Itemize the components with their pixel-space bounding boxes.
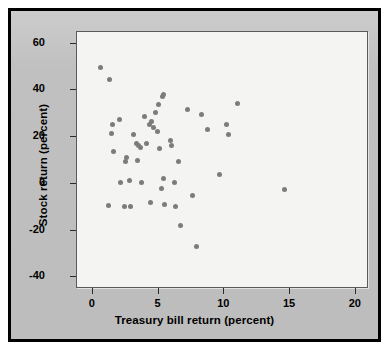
- x-tick-mark: [223, 288, 224, 294]
- x-tick-label: 15: [269, 297, 309, 309]
- plot-area: [76, 31, 368, 288]
- y-tick-mark: [70, 183, 76, 184]
- scatter-point: [136, 143, 141, 148]
- x-axis-label: Treasury bill return (percent): [11, 314, 378, 326]
- x-tick-label: 5: [138, 297, 178, 309]
- y-tick-label: -40: [0, 270, 45, 281]
- scatter-point: [224, 122, 229, 127]
- scatter-point: [176, 159, 181, 164]
- y-tick-mark: [70, 276, 76, 277]
- scatter-point: [128, 204, 133, 209]
- scatter-point: [98, 65, 103, 70]
- scatter-point: [157, 146, 162, 151]
- scatter-point: [124, 155, 129, 160]
- x-tick-label: 10: [203, 297, 243, 309]
- scatter-point: [282, 187, 287, 192]
- scatter-point: [194, 244, 199, 249]
- scatter-point: [235, 101, 240, 106]
- x-tick-label: 20: [335, 297, 375, 309]
- scatter-point: [107, 77, 112, 82]
- scatter-point: [111, 149, 116, 154]
- scatter-point: [159, 186, 164, 191]
- scatter-point: [155, 129, 160, 134]
- y-axis-label: Stock return (percent): [37, 65, 49, 265]
- figure-panel: 6040200-20-40 05101520 Treasury bill ret…: [8, 8, 381, 342]
- y-tick-mark: [70, 89, 76, 90]
- scatter-point: [149, 119, 154, 124]
- scatter-point: [156, 102, 161, 107]
- y-tick-mark: [70, 43, 76, 44]
- x-tick-mark: [158, 288, 159, 294]
- scatter-points-layer: [77, 32, 367, 287]
- scatter-point: [173, 204, 178, 209]
- scatter-point: [178, 223, 183, 228]
- scatter-point: [162, 202, 167, 207]
- scatter-point: [172, 180, 177, 185]
- x-tick-mark: [289, 288, 290, 294]
- scatter-point: [109, 131, 114, 136]
- x-tick-mark: [355, 288, 356, 294]
- scatter-point: [117, 117, 122, 122]
- scatter-point: [185, 107, 190, 112]
- scatter-point: [144, 141, 149, 146]
- x-tick-label: 0: [72, 297, 112, 309]
- scatter-point: [161, 176, 166, 181]
- scatter-point: [127, 178, 132, 183]
- scatter-point: [142, 114, 147, 119]
- x-tick-mark: [92, 288, 93, 294]
- y-tick-mark: [70, 230, 76, 231]
- scatter-point: [199, 112, 204, 117]
- scatter-point: [148, 200, 153, 205]
- scatter-point: [123, 159, 128, 164]
- scatter-point: [217, 172, 222, 177]
- scatter-point: [110, 122, 115, 127]
- scatter-point: [139, 180, 144, 185]
- scatter-point: [169, 143, 174, 148]
- scatter-point: [226, 132, 231, 137]
- scatter-point: [153, 110, 158, 115]
- scatter-point: [106, 203, 111, 208]
- scatter-point: [122, 204, 127, 209]
- scatter-point: [135, 158, 140, 163]
- scatter-point: [118, 180, 123, 185]
- y-tick-label: 60: [0, 37, 45, 48]
- scatter-point: [131, 132, 136, 137]
- scatter-point: [190, 193, 195, 198]
- y-tick-mark: [70, 136, 76, 137]
- scatter-point: [161, 92, 166, 97]
- scatter-point: [205, 127, 210, 132]
